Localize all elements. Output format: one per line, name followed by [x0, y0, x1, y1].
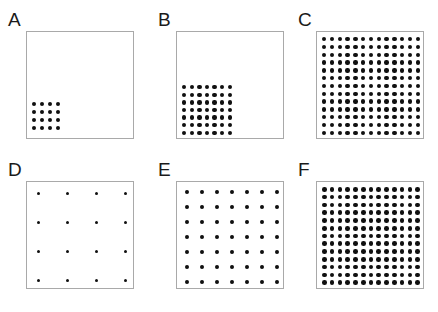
dot: [245, 250, 249, 254]
dot: [330, 257, 335, 262]
dot: [369, 218, 374, 223]
dot: [190, 115, 194, 119]
dot: [408, 107, 412, 111]
dot: [338, 92, 342, 96]
dot: [48, 118, 52, 122]
dot: [392, 131, 396, 135]
dot: [400, 280, 405, 285]
dot: [384, 60, 388, 64]
dot: [376, 210, 381, 215]
dot: [228, 100, 232, 104]
dot: [415, 249, 420, 254]
dot: [212, 93, 216, 97]
dot: [322, 241, 327, 246]
dot: [228, 108, 232, 112]
dot: [353, 76, 357, 80]
dot: [353, 68, 357, 72]
dot: [400, 203, 405, 208]
dot: [377, 60, 381, 64]
dot: [37, 192, 40, 195]
dot: [353, 123, 357, 127]
dot: [361, 241, 366, 246]
dot: [361, 273, 366, 278]
dot: [228, 93, 232, 97]
dot: [377, 123, 381, 127]
dot: [322, 210, 327, 215]
dot: [345, 280, 350, 285]
dot: [408, 210, 413, 215]
dot: [338, 218, 343, 223]
dot: [400, 273, 405, 278]
dot: [408, 123, 412, 127]
dot: [415, 265, 420, 270]
dot: [369, 123, 373, 127]
dot: [384, 249, 389, 254]
dot: [369, 68, 373, 72]
dot: [392, 249, 397, 254]
dot: [408, 273, 413, 278]
dot: [369, 203, 374, 208]
dot: [361, 226, 366, 231]
dot: [353, 280, 358, 285]
dot: [384, 203, 389, 208]
dot: [322, 249, 327, 254]
dot: [322, 195, 327, 200]
dot: [400, 241, 405, 246]
dot: [220, 115, 224, 119]
dot: [377, 37, 381, 41]
dot: [392, 76, 396, 80]
dot-layer-e: [177, 182, 283, 288]
dot: [215, 280, 219, 284]
panel-box-c: [316, 31, 424, 139]
dot: [37, 250, 40, 253]
dot: [212, 115, 216, 119]
dot: [338, 76, 342, 80]
dot: [415, 226, 420, 231]
dot: [353, 45, 357, 49]
dot: [338, 265, 343, 270]
dot: [330, 45, 334, 49]
dot: [330, 76, 334, 80]
dot: [212, 123, 216, 127]
dot: [392, 234, 397, 239]
dot: [245, 265, 249, 269]
dot: [338, 280, 343, 285]
dot: [353, 241, 358, 246]
dot: [369, 60, 373, 64]
dot: [369, 45, 373, 49]
dot: [40, 110, 44, 114]
dot: [322, 107, 326, 111]
dot: [220, 100, 224, 104]
dot: [330, 187, 335, 192]
dot: [330, 195, 335, 200]
dot: [369, 99, 373, 103]
dot: [330, 280, 335, 285]
dot: [205, 85, 209, 89]
dot: [415, 273, 420, 278]
dot: [322, 84, 326, 88]
dot: [361, 210, 366, 215]
dot: [416, 99, 420, 103]
dot: [215, 265, 219, 269]
dot: [377, 76, 381, 80]
dot: [392, 210, 397, 215]
panel-box-d: [26, 181, 134, 289]
dot: [338, 195, 343, 200]
dot: [245, 235, 249, 239]
dot: [338, 234, 343, 239]
dot: [215, 250, 219, 254]
dot: [182, 100, 186, 104]
dot: [416, 131, 420, 135]
dot: [345, 234, 350, 239]
dot: [345, 210, 350, 215]
dot: [228, 123, 232, 127]
dot: [400, 234, 405, 239]
dot: [384, 187, 389, 192]
dot: [369, 226, 374, 231]
dot: [200, 205, 204, 209]
dot: [376, 280, 381, 285]
dot: [369, 241, 374, 246]
dot: [345, 115, 349, 119]
dot: [330, 131, 334, 135]
dot: [384, 257, 389, 262]
